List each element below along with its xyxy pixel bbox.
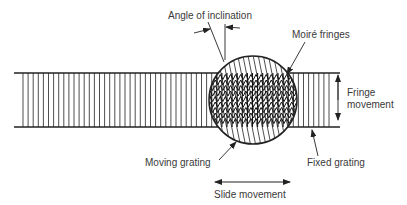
moving-grating-line xyxy=(150,50,170,150)
moving-grating-line xyxy=(298,50,318,150)
moving-grating-line xyxy=(160,50,180,150)
moving-grating-line xyxy=(313,50,333,150)
moving-grating-line xyxy=(170,50,190,150)
moving-grating-line xyxy=(329,50,349,150)
moving-grating-line xyxy=(308,50,328,150)
inclined-reference-line xyxy=(208,22,224,62)
slide-movement-label: Slide movement xyxy=(214,189,286,200)
angle-arrow-right xyxy=(226,27,240,28)
angle-arrow-left xyxy=(194,29,210,33)
fringe-movement-label-1: Fringe xyxy=(347,87,376,98)
moving-grating-label: Moving grating xyxy=(145,157,211,168)
moving-grating-line xyxy=(165,50,185,150)
moving-grating-line xyxy=(181,50,201,150)
fixed-grating-label: Fixed grating xyxy=(307,157,365,168)
moving-grating-line xyxy=(191,50,211,150)
fringe-movement-label-2: movement xyxy=(347,99,394,110)
moving-grating-line xyxy=(186,50,206,150)
fixed-grating-leader xyxy=(312,130,318,156)
moire-leader-line xyxy=(287,42,305,74)
moving-grating-leader xyxy=(219,142,236,160)
moire-diagram: Angle of inclination Moiré fringes Fring… xyxy=(0,0,407,205)
angle-of-inclination-label: Angle of inclination xyxy=(168,10,252,21)
moving-grating-line xyxy=(155,50,175,150)
moving-grating-line xyxy=(176,50,196,150)
moving-grating-line xyxy=(323,50,343,150)
moving-grating-line xyxy=(318,50,338,150)
moire-fringes-label: Moiré fringes xyxy=(292,29,350,40)
